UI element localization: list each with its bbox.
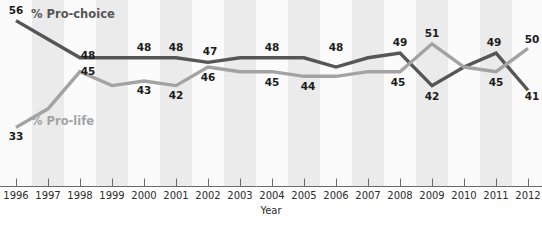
point-label: 41	[525, 90, 540, 102]
background-band	[224, 0, 256, 186]
x-axis-tick-label: 1996	[3, 190, 28, 201]
background-band	[480, 0, 512, 186]
x-axis-tick-labels: 1996199719981999200020012002200320042005…	[3, 190, 540, 201]
point-label: 49	[487, 36, 502, 48]
point-label: 48	[329, 41, 344, 53]
background-band	[64, 0, 96, 186]
background-band	[320, 0, 352, 186]
point-label: 43	[137, 84, 152, 96]
x-axis-tick-label: 2008	[387, 190, 412, 201]
background-band	[256, 0, 288, 186]
point-label: 45	[489, 76, 504, 88]
point-label: 47	[203, 45, 218, 57]
x-axis-tick-label: 2003	[227, 190, 252, 201]
background-band	[288, 0, 320, 186]
point-label: 50	[525, 33, 540, 45]
background-band	[384, 0, 416, 186]
point-label: 33	[9, 130, 24, 142]
x-axis-tick-label: 2009	[419, 190, 444, 201]
background-band	[192, 0, 224, 186]
x-axis-tick-label: 2012	[515, 190, 540, 201]
x-axis-tick-label: 2006	[323, 190, 348, 201]
point-label: 46	[201, 71, 216, 83]
x-axis-tick-label: 2010	[451, 190, 476, 201]
line-chart: 5648484847484849424941334543424645444551…	[0, 0, 542, 226]
point-label: 44	[301, 80, 316, 92]
point-label: 56	[9, 4, 24, 16]
x-axis-tick-label: 2011	[483, 190, 508, 201]
x-axis-tick-label: 1999	[99, 190, 124, 201]
point-label: 42	[169, 89, 184, 101]
x-axis-tick-label: 2004	[259, 190, 284, 201]
point-label: 45	[391, 76, 406, 88]
x-axis-tick-label: 2000	[131, 190, 156, 201]
background-band	[448, 0, 480, 186]
x-axis-tick-label: 2005	[291, 190, 316, 201]
point-label: 45	[265, 76, 280, 88]
series-annotation-pro-choice: % Pro-choice	[31, 7, 115, 21]
x-axis-tick-label: 2001	[163, 190, 188, 201]
series-annotation-pro-life: % Pro-life	[31, 114, 94, 128]
point-label: 48	[81, 49, 96, 61]
point-label: 42	[425, 90, 440, 102]
background-band	[96, 0, 128, 186]
x-axis-tick-label: 2007	[355, 190, 380, 201]
background-bands	[0, 0, 542, 186]
x-axis-tick-label: 2002	[195, 190, 220, 201]
x-axis-title: Year	[259, 205, 282, 216]
point-label: 49	[393, 36, 408, 48]
point-label: 45	[81, 65, 96, 77]
point-label: 48	[137, 41, 152, 53]
point-label: 51	[425, 27, 440, 39]
point-label: 48	[265, 41, 280, 53]
chart-container: 5648484847484849424941334543424645444551…	[0, 0, 542, 226]
background-band	[32, 0, 64, 186]
x-axis-tick-label: 1997	[35, 190, 60, 201]
point-label: 48	[169, 41, 184, 53]
background-band	[352, 0, 384, 186]
x-axis-tick-label: 1998	[67, 190, 92, 201]
